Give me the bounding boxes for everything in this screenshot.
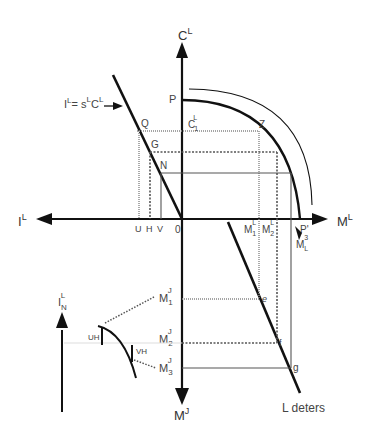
vh-label: VH bbox=[136, 347, 147, 356]
axis-label-up: CL bbox=[178, 26, 192, 43]
ppf-curve bbox=[182, 100, 300, 219]
point-e: e bbox=[262, 294, 267, 304]
point-q: Q bbox=[141, 118, 149, 129]
point-p: P bbox=[169, 93, 176, 105]
tick-h: H bbox=[146, 224, 153, 234]
tick-m2l: M2L bbox=[262, 219, 274, 237]
arrow-down-icon bbox=[175, 388, 189, 405]
curves bbox=[182, 89, 312, 219]
connector-m1j bbox=[105, 297, 154, 323]
outer-arc bbox=[189, 89, 312, 205]
point-c1: C1L bbox=[188, 114, 198, 132]
axes bbox=[36, 42, 328, 405]
uh-label: UH bbox=[88, 333, 100, 342]
axis-label-down: MJ bbox=[174, 406, 189, 423]
arrow-up-icon bbox=[176, 42, 188, 58]
point-labels: P Q G N Z C1L P' e f g bbox=[141, 93, 309, 373]
equation-arrow-icon bbox=[113, 102, 123, 110]
left-ticks: U H V bbox=[135, 224, 163, 234]
tick-m2j: M2J bbox=[159, 327, 173, 348]
inset-curve bbox=[98, 326, 136, 378]
point-n: N bbox=[160, 160, 167, 171]
arrow-right-icon bbox=[312, 213, 328, 225]
axis-label-left: IL bbox=[18, 212, 27, 229]
tick-u: U bbox=[135, 224, 142, 234]
l-deters-label: L deters bbox=[282, 401, 325, 415]
tick-m1l: M1L bbox=[244, 219, 256, 237]
equation-label: IL= sLCL bbox=[64, 95, 123, 110]
l-deters-line bbox=[228, 222, 300, 393]
origin-label: 0 bbox=[175, 224, 181, 235]
tick-m3j: M3J bbox=[159, 356, 173, 377]
tick-m1j: M1J bbox=[159, 286, 173, 307]
axis-label-right: ML bbox=[337, 212, 353, 229]
down-ticks: M1J M2J M3J bbox=[159, 286, 173, 377]
point-g: G bbox=[151, 139, 159, 150]
diagram-canvas: CL MJ IL ML 0 IL= sLCL P Q G N Z C1L P' … bbox=[0, 0, 370, 436]
point-g-lower: g bbox=[293, 362, 299, 373]
inset-diagram: INL UH VH bbox=[56, 291, 182, 412]
arrow-left-icon bbox=[36, 213, 52, 225]
connector-m3j bbox=[134, 360, 156, 368]
inset-axis-label: INL bbox=[58, 291, 67, 312]
diagram-svg: CL MJ IL ML 0 IL= sLCL P Q G N Z C1L P' … bbox=[0, 0, 370, 436]
inset-arrow-up-icon bbox=[56, 312, 68, 328]
tick-ml3: ML3 bbox=[296, 234, 308, 252]
tick-v: V bbox=[157, 224, 163, 234]
svg-text:IL= sLCL: IL= sLCL bbox=[64, 95, 104, 110]
point-z: Z bbox=[259, 119, 265, 130]
